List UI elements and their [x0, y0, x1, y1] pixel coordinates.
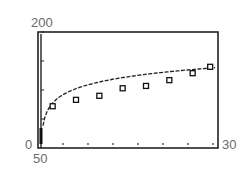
data-point-square — [50, 104, 55, 109]
x-ticks — [62, 143, 214, 145]
data-point-square — [208, 64, 213, 69]
x-tick — [62, 143, 64, 145]
data-point-square — [74, 97, 79, 102]
data-point-square — [144, 83, 149, 88]
x-tick — [137, 143, 139, 145]
plot-frame — [38, 32, 218, 148]
curve-foot — [40, 128, 43, 144]
data-point-square — [97, 93, 102, 98]
x-tick — [162, 143, 164, 145]
x-tick — [187, 143, 189, 145]
x-tick — [212, 143, 214, 145]
data-point-square — [190, 71, 195, 76]
fit-curve — [43, 68, 215, 126]
data-point-square — [120, 86, 125, 91]
x-tick — [87, 143, 89, 145]
data-points — [50, 64, 213, 108]
x-tick — [112, 143, 114, 145]
plot-area — [0, 0, 245, 170]
data-point-square — [167, 78, 172, 83]
